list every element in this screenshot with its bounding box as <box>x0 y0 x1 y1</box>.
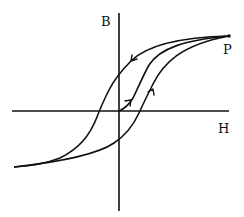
arrow-up-right-icon <box>148 89 154 95</box>
lower-ascending-branch <box>14 36 229 167</box>
upper-descending-branch <box>14 36 229 167</box>
point-p-label: P <box>223 42 232 57</box>
initial-magnetization-curve <box>119 36 229 111</box>
hysteresis-diagram: B H P <box>0 0 244 217</box>
h-axis-label: H <box>218 121 229 136</box>
b-axis-label: B <box>101 14 111 29</box>
saturation-point <box>227 34 231 38</box>
